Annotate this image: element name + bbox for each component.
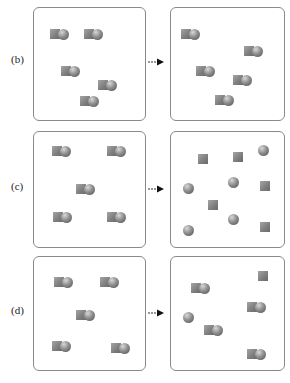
- sphere-atom-icon: [241, 75, 252, 86]
- square-atom-icon: [258, 271, 268, 281]
- sphere-atom-icon: [69, 66, 80, 77]
- sphere-atom-icon: [255, 349, 266, 360]
- sphere-atom-icon: [189, 29, 200, 40]
- sphere-atom-icon: [183, 225, 194, 236]
- sphere-atom-icon: [183, 312, 194, 323]
- square-atom-icon: [260, 181, 270, 191]
- sphere-atom-icon: [60, 341, 71, 352]
- sphere-atom-icon: [92, 29, 103, 40]
- sphere-atom-icon: [58, 29, 69, 40]
- sphere-atom-icon: [108, 277, 119, 288]
- right-arrow-icon: [148, 185, 164, 193]
- sphere-atom-icon: [255, 302, 266, 313]
- sphere-atom-icon: [84, 184, 95, 195]
- sphere-atom-icon: [228, 177, 239, 188]
- sphere-atom-icon: [223, 95, 234, 106]
- sphere-atom-icon: [61, 212, 72, 223]
- square-atom-icon: [198, 154, 208, 164]
- row-label-d: (d): [11, 304, 24, 316]
- row-label-b: (b): [11, 53, 24, 65]
- sphere-atom-icon: [252, 46, 263, 57]
- square-atom-icon: [260, 222, 270, 232]
- sphere-atom-icon: [204, 66, 215, 77]
- sphere-atom-icon: [115, 212, 126, 223]
- sphere-atom-icon: [106, 80, 117, 91]
- square-atom-icon: [208, 200, 218, 210]
- sphere-atom-icon: [258, 145, 269, 156]
- sphere-atom-icon: [115, 146, 126, 157]
- sphere-atom-icon: [62, 277, 73, 288]
- sphere-atom-icon: [60, 146, 71, 157]
- sphere-atom-icon: [183, 183, 194, 194]
- square-atom-icon: [233, 152, 243, 162]
- sphere-atom-icon: [228, 214, 239, 225]
- sphere-atom-icon: [88, 96, 99, 107]
- sphere-atom-icon: [212, 325, 223, 336]
- right-arrow-icon: [148, 309, 164, 317]
- sphere-atom-icon: [119, 343, 130, 354]
- sphere-atom-icon: [199, 283, 210, 294]
- right-arrow-icon: [148, 58, 164, 66]
- row-label-c: (c): [11, 180, 23, 192]
- sphere-atom-icon: [84, 310, 95, 321]
